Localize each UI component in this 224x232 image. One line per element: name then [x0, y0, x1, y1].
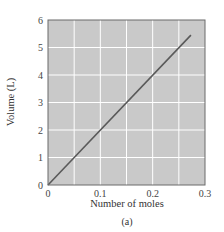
x-tick-label: 0	[46, 188, 51, 199]
y-axis-label: Volume (L)	[5, 77, 17, 126]
y-tick-label: 5	[38, 42, 43, 53]
y-tick-label: 6	[38, 15, 43, 26]
figure-caption: (a)	[121, 216, 132, 228]
chart: 0123456 00.10.20.3 Volume (L) Number of …	[0, 0, 224, 232]
y-tick-label: 2	[38, 125, 43, 136]
y-axis-ticks: 0123456	[38, 15, 43, 191]
x-tick-label: 0.3	[199, 188, 212, 199]
y-tick-label: 1	[38, 152, 43, 163]
y-tick-label: 0	[38, 180, 43, 191]
y-tick-label: 4	[38, 70, 43, 81]
x-axis-label: Number of moles	[90, 198, 164, 209]
y-tick-label: 3	[38, 97, 43, 108]
